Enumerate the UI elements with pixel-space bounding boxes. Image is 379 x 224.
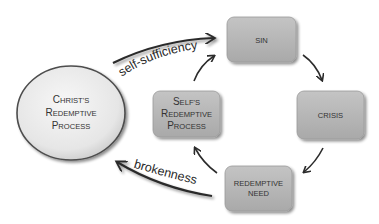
redemptive-process-diagram: CHRIST'S REDEMPTIVE PROCESS SIN CRISIS R… <box>0 0 379 224</box>
crisis-node: CRISIS <box>297 91 364 139</box>
brokenness-label: brokenness <box>132 157 198 187</box>
arrow-selfs-to-sin <box>194 56 214 81</box>
selfs-label-line-1: SELF'S <box>173 96 200 107</box>
redemptive-need-label-line-1: REDEMPTIVE <box>234 179 283 188</box>
redemptive-need-node: REDEMPTIVE NEED <box>225 166 292 211</box>
christs-label-line-1: CHRIST'S <box>53 94 90 105</box>
redemptive-need-label-line-2: NEED <box>248 189 270 198</box>
selfs-label-line-3: PROCESS <box>167 120 206 131</box>
self-sufficiency-edge: self-sufficiency <box>113 38 214 79</box>
arrow-crisis-to-need <box>304 148 323 172</box>
sin-node: SIN <box>227 17 296 62</box>
christs-label-line-2: REDEMPTIVE <box>45 107 96 118</box>
crisis-label: CRISIS <box>318 111 343 120</box>
arrow-sin-to-crisis <box>303 55 322 80</box>
brokenness-edge: brokenness <box>117 157 212 196</box>
selfs-label-line-2: REDEMPTIVE <box>161 108 212 119</box>
sin-label: SIN <box>255 36 268 45</box>
self-sufficiency-label: self-sufficiency <box>116 38 199 79</box>
selfs-redemptive-process-node: SELF'S REDEMPTIVE PROCESS <box>153 91 220 137</box>
christs-label-line-3: PROCESS <box>52 120 91 131</box>
christs-redemptive-process-node: CHRIST'S REDEMPTIVE PROCESS <box>17 66 125 160</box>
arrow-need-to-selfs <box>195 148 217 173</box>
